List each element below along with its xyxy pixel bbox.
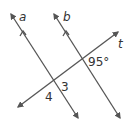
label-a: a: [19, 10, 26, 24]
line-b: [54, 14, 120, 118]
parallel-lines-diagram: a b t 95° 3 4: [0, 0, 133, 125]
label-b: b: [63, 10, 71, 24]
label-t: t: [118, 37, 124, 51]
label-angle-4: 4: [45, 90, 53, 104]
line-t: [18, 32, 118, 107]
label-angle-3: 3: [61, 80, 69, 94]
label-angle-95: 95°: [88, 55, 109, 69]
